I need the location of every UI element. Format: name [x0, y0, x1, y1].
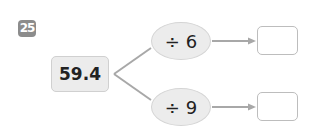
answer-box-2[interactable]	[257, 92, 298, 121]
answer-box-1[interactable]	[257, 26, 298, 55]
operation-divide-9: ÷ 9	[151, 88, 211, 126]
start-value-box: 59.4	[51, 56, 109, 92]
problem-number-badge: 25	[18, 20, 36, 37]
operation-divide-6: ÷ 6	[151, 22, 211, 60]
